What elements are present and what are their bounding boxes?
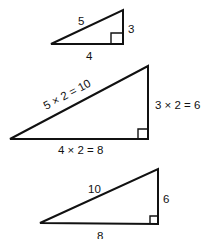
- vertical-leg-label: 3 × 2 = 6: [155, 99, 200, 111]
- triangle-scaled-construction: 5 × 2 = 10 3 × 2 = 6 4 × 2 = 8: [10, 66, 200, 156]
- right-angle-marker: [111, 33, 123, 44]
- right-angle-marker: [150, 216, 158, 224]
- triangle-original: 5 3 4: [51, 10, 134, 62]
- vertical-leg-label: 6: [163, 193, 169, 205]
- hypotenuse-label: 5: [78, 15, 84, 27]
- right-angle-marker: [138, 129, 148, 139]
- horizontal-leg-label: 4: [86, 50, 93, 62]
- triangle-scaled-result: 10 6 8: [40, 169, 169, 239]
- vertical-leg-label: 3: [128, 23, 134, 35]
- hypotenuse-label: 5 × 2 = 10: [41, 77, 92, 112]
- horizontal-leg-label: 8: [97, 230, 103, 239]
- similar-triangles-diagram: 5 3 4 5 × 2 = 10 3 × 2 = 6 4 × 2 = 8 10 …: [0, 0, 222, 239]
- hypotenuse-label: 10: [88, 183, 101, 195]
- horizontal-leg-label: 4 × 2 = 8: [58, 144, 103, 156]
